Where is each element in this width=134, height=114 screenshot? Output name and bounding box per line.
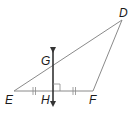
- segment-fd: [93, 20, 122, 91]
- right-angle-marker: [53, 84, 60, 91]
- label-d: D: [119, 6, 128, 20]
- label-g: G: [41, 54, 50, 68]
- segment-de: [14, 20, 122, 91]
- label-e: E: [5, 93, 14, 107]
- label-f: F: [89, 93, 97, 107]
- label-h: H: [41, 93, 50, 107]
- geometry-diagram: D E F G H: [0, 0, 134, 114]
- triangle-def: [14, 20, 122, 91]
